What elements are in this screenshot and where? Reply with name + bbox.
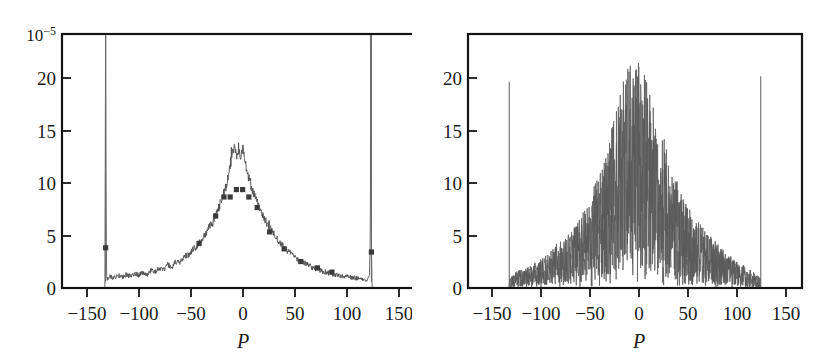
y-tick-label: 0 bbox=[453, 278, 463, 299]
data-marker bbox=[315, 265, 320, 270]
spectrum-trace-overlay bbox=[509, 63, 760, 287]
x-tick-label: −50 bbox=[176, 303, 206, 324]
data-marker bbox=[329, 270, 334, 275]
data-marker bbox=[267, 229, 272, 234]
scale-mantissa: 10 bbox=[26, 26, 43, 45]
y-tick-label: 5 bbox=[453, 226, 463, 247]
x-tick-label: 150 bbox=[772, 303, 801, 324]
y-tick-label: 20 bbox=[37, 68, 56, 89]
data-series-right bbox=[509, 63, 760, 288]
x-tick-label: −150 bbox=[472, 303, 511, 324]
x-tick-label: 0 bbox=[634, 303, 644, 324]
x-tick-label: 0 bbox=[238, 303, 248, 324]
y-axis-labels-right: 20 15 10 5 0 bbox=[443, 68, 462, 299]
x-tick-label: −100 bbox=[521, 303, 560, 324]
y-axis-labels-left: 20 15 10 5 0 bbox=[37, 68, 56, 299]
data-marker bbox=[282, 246, 287, 251]
x-axis-ticks-right bbox=[492, 288, 786, 297]
data-marker bbox=[255, 205, 260, 210]
plot-frame-left bbox=[62, 34, 412, 288]
y-tick-label: 0 bbox=[47, 278, 57, 299]
data-marker bbox=[196, 241, 201, 246]
y-axis-ticks-left bbox=[62, 34, 71, 288]
data-marker bbox=[369, 249, 374, 254]
data-marker bbox=[298, 259, 303, 264]
x-axis-labels-right: −150 −100 −50 0 50 100 150 bbox=[472, 303, 800, 324]
figure-container: 10−5 20 15 10 5 0 −150 −100 −50 0 50 100… bbox=[0, 0, 825, 364]
y-tick-label: 15 bbox=[37, 121, 56, 142]
data-marker bbox=[221, 194, 226, 199]
x-axis-labels-left: −150 −100 −50 0 50 100 150 bbox=[67, 303, 412, 324]
x-tick-label: 150 bbox=[385, 303, 412, 324]
x-axis-ticks-left bbox=[87, 288, 399, 297]
data-marker bbox=[234, 187, 239, 192]
x-tick-label: −150 bbox=[67, 303, 106, 324]
x-tick-label: 50 bbox=[286, 303, 305, 324]
scale-exponent: −5 bbox=[43, 24, 56, 38]
chart-svg-left: 10−5 20 15 10 5 0 −150 −100 −50 0 50 100… bbox=[0, 0, 412, 364]
x-tick-label: 100 bbox=[723, 303, 752, 324]
x-tick-label: 100 bbox=[333, 303, 362, 324]
y-tick-label: 5 bbox=[47, 226, 57, 247]
data-series-left bbox=[62, 29, 412, 288]
data-marker bbox=[213, 213, 218, 218]
x-axis-title-right: P bbox=[632, 330, 645, 352]
data-marker bbox=[228, 194, 233, 199]
data-marker bbox=[240, 187, 245, 192]
distribution-trace bbox=[62, 29, 412, 288]
data-marker bbox=[246, 194, 251, 199]
y-axis-scale-label-left: 10−5 bbox=[26, 24, 56, 45]
chart-panel-right: 20 15 10 5 0 −150 −100 −50 0 50 100 150 … bbox=[412, 0, 825, 364]
y-tick-label: 10 bbox=[37, 173, 56, 194]
x-axis-title-left: P bbox=[236, 330, 249, 352]
y-tick-label: 10 bbox=[443, 173, 462, 194]
x-tick-label: −100 bbox=[119, 303, 158, 324]
y-tick-label: 15 bbox=[443, 121, 462, 142]
x-tick-label: −50 bbox=[575, 303, 605, 324]
x-tick-label: 50 bbox=[679, 303, 698, 324]
chart-panel-left: 10−5 20 15 10 5 0 −150 −100 −50 0 50 100… bbox=[0, 0, 412, 364]
y-tick-label: 20 bbox=[443, 68, 462, 89]
y-axis-ticks-right bbox=[468, 34, 477, 288]
chart-svg-right: 20 15 10 5 0 −150 −100 −50 0 50 100 150 … bbox=[412, 0, 825, 364]
data-marker bbox=[103, 245, 108, 250]
